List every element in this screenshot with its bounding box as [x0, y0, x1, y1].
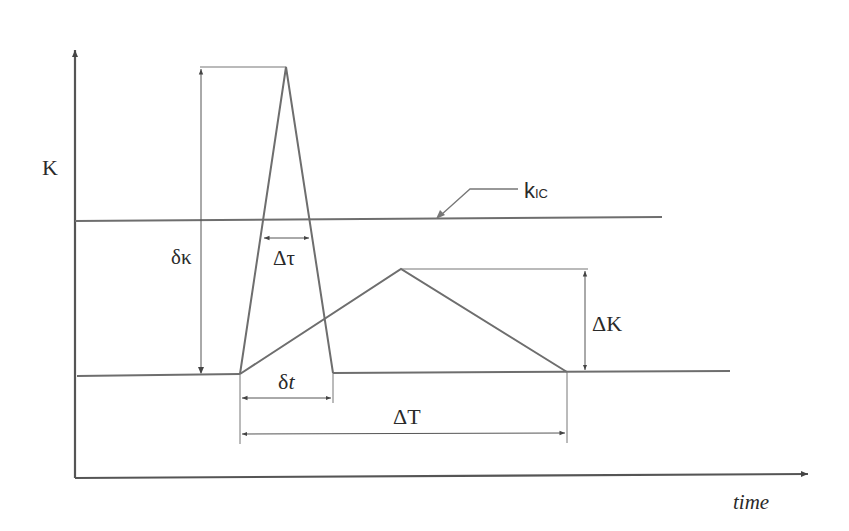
diagram-canvas: K kIC δκ Δτ ΔK δt ΔT time — [0, 0, 849, 531]
delta-t-label: δt — [278, 369, 295, 394]
delta-kappa-label: δκ — [171, 245, 192, 269]
kic-critical-line — [75, 217, 662, 221]
delta-K-label: ΔK — [592, 311, 622, 336]
delta-tau-label: Δτ — [273, 246, 295, 270]
delta-kappa-bottom-arrow-icon — [198, 367, 204, 374]
kic-label: kIC — [524, 178, 548, 203]
long-pulse-ramp — [240, 269, 567, 374]
baseline-right — [333, 371, 730, 373]
delta-T-label: ΔT — [393, 404, 421, 429]
x-axis-label: time — [733, 490, 769, 514]
baseline-left — [77, 374, 240, 376]
x-axis — [75, 474, 808, 478]
y-axis-label: K — [42, 155, 58, 180]
delta-T-dimension-arrow — [242, 433, 565, 434]
kic-leader-line — [441, 189, 518, 215]
